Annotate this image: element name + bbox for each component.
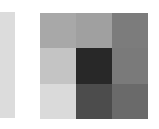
grid-cell-0-2 [112,13,148,48]
grid-cell-1-2 [112,48,148,83]
grid-cell-0-0 [40,13,76,48]
grid-cell-2-0 [40,84,76,119]
left-gray-strip [0,12,15,118]
grid-cell-0-1 [76,13,112,48]
grid-cell-1-1 [76,48,112,83]
grid-cell-2-1 [76,84,112,119]
grid-cell-1-0 [40,48,76,83]
grayscale-grid [40,13,148,119]
grid-cell-2-2 [112,84,148,119]
